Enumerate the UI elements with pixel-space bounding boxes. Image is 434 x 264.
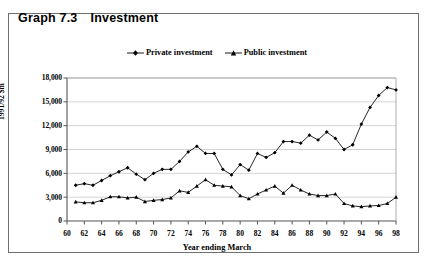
data-point-private [351, 143, 355, 147]
data-point-private [108, 174, 112, 178]
data-point-private [290, 140, 294, 144]
data-point-public [273, 184, 277, 188]
y-tick-label: 3,000 [45, 193, 62, 202]
data-point-public [290, 183, 294, 187]
data-point-private [256, 152, 260, 156]
data-point-public [299, 188, 303, 192]
y-tick-label: 12,000 [42, 121, 62, 130]
y-tick-label: 9,000 [45, 145, 62, 154]
x-axis-title: Year ending March [0, 243, 434, 252]
y-tick-label: 6,000 [45, 169, 62, 178]
chart-canvas [0, 0, 434, 264]
data-point-public [204, 178, 208, 182]
data-point-private [160, 167, 164, 171]
data-point-private [74, 183, 78, 187]
y-tick-label: 15,000 [42, 97, 62, 106]
data-point-public [333, 192, 337, 196]
data-point-private [264, 156, 268, 160]
x-tick-label: 98 [386, 229, 406, 238]
data-point-public [178, 189, 182, 193]
data-point-private [82, 182, 86, 186]
data-point-private [212, 152, 216, 156]
y-tick-label: 18,000 [42, 73, 62, 82]
y-tick-label: 0 [58, 216, 62, 225]
chart-plot-area: 1991/92 $m 03,0006,0009,00012,00015,0001… [0, 0, 434, 264]
series-line-public [76, 180, 396, 207]
data-point-private [91, 183, 95, 187]
data-point-private [100, 179, 104, 183]
data-point-private [394, 88, 398, 92]
